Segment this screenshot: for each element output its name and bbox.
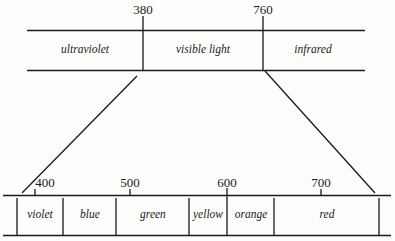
lower-tick-label: 700	[311, 175, 331, 191]
lower-tick-label: 400	[35, 175, 55, 191]
spectrum-diagram	[0, 0, 395, 241]
region-infrared: infrared	[294, 43, 331, 55]
region-red: red	[320, 208, 335, 220]
region-blue: blue	[80, 208, 100, 220]
region-green: green	[140, 208, 166, 220]
upper-tick-label: 380	[133, 2, 153, 18]
region-orange: orange	[235, 208, 268, 220]
lower-tick-label: 500	[120, 175, 140, 191]
region-ultraviolet: ultraviolet	[61, 43, 109, 55]
upper-tick-label: 760	[253, 2, 273, 18]
region-visible-light: visible light	[176, 43, 230, 55]
region-violet: violet	[27, 208, 53, 220]
region-yellow: yellow	[193, 208, 223, 220]
lower-tick-label: 600	[217, 175, 237, 191]
